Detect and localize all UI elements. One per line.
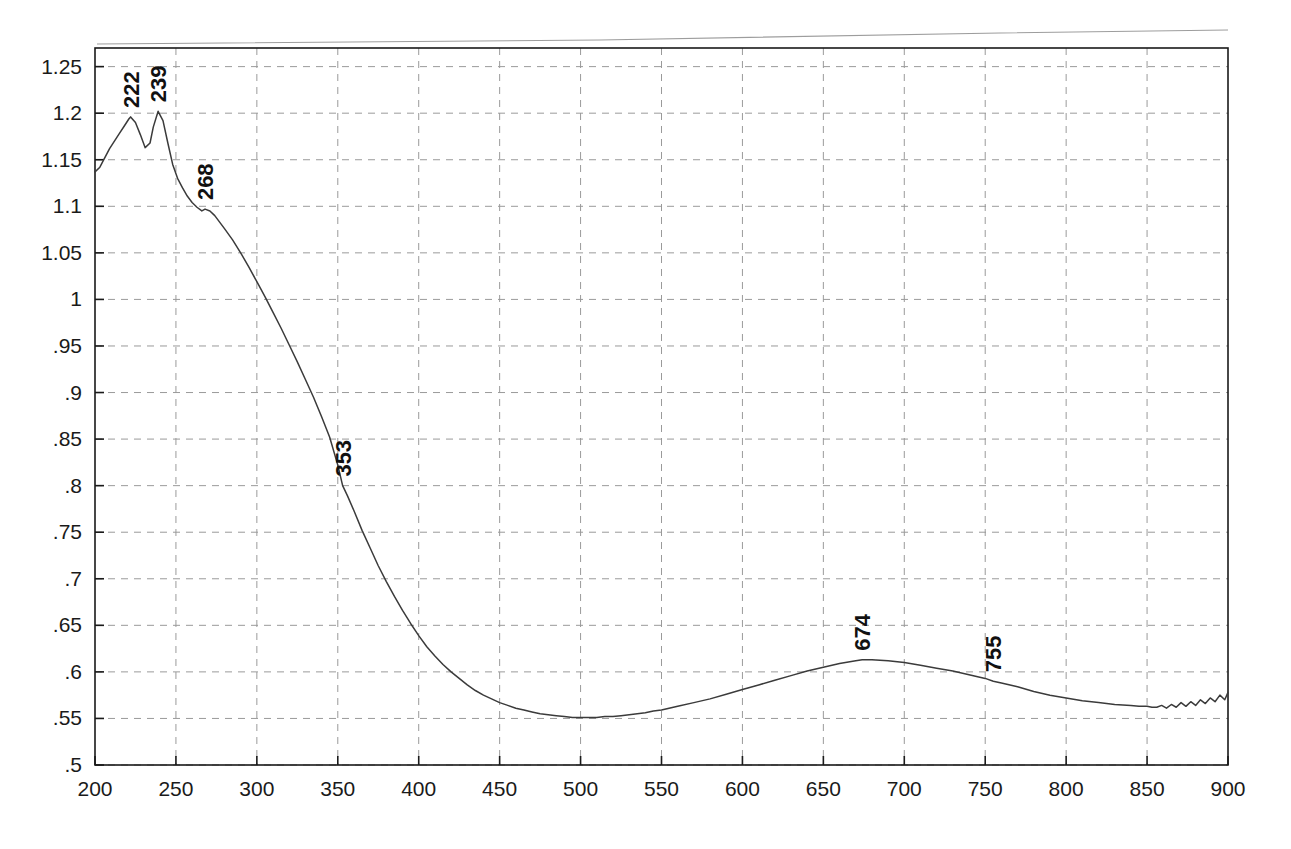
x-tick-label: 900 [1210, 777, 1245, 800]
absorption-spectrum-chart: .5.55.6.65.7.75.8.85.9.9511.051.11.151.2… [0, 0, 1291, 849]
x-tick-label: 850 [1130, 777, 1165, 800]
y-tick-label: 1.25 [41, 55, 82, 78]
y-tick-label: .9 [64, 381, 82, 404]
gridlines [95, 48, 1228, 765]
y-tick-label: .5 [64, 753, 82, 776]
y-tick-label: .55 [53, 706, 82, 729]
x-tick-label: 650 [806, 777, 841, 800]
y-tick-label: 1.2 [53, 101, 82, 124]
x-tick-label: 350 [320, 777, 355, 800]
peak-label: 674 [850, 613, 875, 650]
peak-label: 239 [146, 66, 171, 103]
x-tick-label: 700 [887, 777, 922, 800]
y-tick-label: .6 [64, 660, 82, 683]
y-tick-label: .7 [64, 567, 82, 590]
y-tick-label: .85 [53, 427, 82, 450]
x-tick-label: 300 [239, 777, 274, 800]
x-tick-label: 250 [158, 777, 193, 800]
y-tick-label: 1.05 [41, 241, 82, 264]
x-tick-label: 800 [1049, 777, 1084, 800]
x-tick-label: 200 [77, 777, 112, 800]
x-tick-label: 750 [968, 777, 1003, 800]
peak-label: 222 [119, 71, 144, 108]
y-tick-label: .95 [53, 334, 82, 357]
peak-annotation: 353 [331, 440, 356, 477]
peak-annotation: 755 [981, 635, 1006, 672]
peak-annotation: 674 [850, 613, 875, 650]
spectrum-page: .5.55.6.65.7.75.8.85.9.9511.051.11.151.2… [0, 0, 1291, 849]
scan-artifact-line [97, 30, 1228, 44]
x-tick-label: 450 [482, 777, 517, 800]
y-axis-tick-labels: .5.55.6.65.7.75.8.85.9.9511.051.11.151.2… [41, 55, 82, 776]
y-tick-label: .65 [53, 613, 82, 636]
y-tick-label: .75 [53, 520, 82, 543]
peak-annotation: 268 [193, 163, 218, 200]
y-tick-label: .8 [64, 474, 82, 497]
x-axis-tick-labels: 2002503003504004505005506006507007508008… [77, 777, 1245, 800]
y-tick-label: 1 [70, 287, 82, 310]
x-tick-label: 400 [401, 777, 436, 800]
peak-annotation: 239 [146, 66, 171, 103]
peak-label: 755 [981, 635, 1006, 672]
x-tick-label: 500 [563, 777, 598, 800]
y-tick-label: 1.15 [41, 148, 82, 171]
peak-label: 268 [193, 163, 218, 200]
x-tick-label: 550 [644, 777, 679, 800]
x-tick-label: 600 [725, 777, 760, 800]
y-tick-label: 1.1 [53, 194, 82, 217]
peak-label: 353 [331, 440, 356, 477]
peak-annotation: 222 [119, 71, 144, 108]
peak-annotations: 222239268353674755 [119, 66, 1007, 673]
